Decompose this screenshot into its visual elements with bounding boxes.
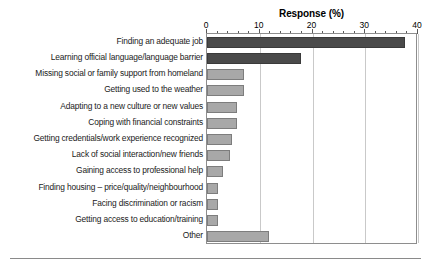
category-label: Lack of social interaction/new friends xyxy=(0,150,203,158)
bar xyxy=(207,166,223,177)
bar xyxy=(207,215,218,226)
bar xyxy=(207,199,218,210)
chart-title: Response (%) xyxy=(206,8,417,19)
bar xyxy=(207,150,230,161)
category-label: Coping with financial constraints xyxy=(0,118,203,126)
gridline xyxy=(418,34,419,243)
y-axis-category-labels: Finding an adequate jobLearning official… xyxy=(0,33,203,244)
bar xyxy=(207,37,405,48)
category-label: Learning official language/language barr… xyxy=(0,53,203,61)
category-label: Getting credentials/work experience reco… xyxy=(0,134,203,142)
category-label: Finding an adequate job xyxy=(0,37,203,45)
category-label: Other xyxy=(0,231,203,239)
category-label: Missing social or family support from ho… xyxy=(0,69,203,77)
category-label: Getting access to education/training xyxy=(0,215,203,223)
bar xyxy=(207,183,218,194)
bar xyxy=(207,102,237,113)
bar xyxy=(207,53,301,64)
gridline xyxy=(260,34,261,243)
bar-chart-figure: Response (%) 010203040 Finding an adequa… xyxy=(0,0,431,271)
bar xyxy=(207,134,232,145)
category-label: Getting used to the weather xyxy=(0,85,203,93)
gridline xyxy=(313,34,314,243)
category-label: Finding housing – price/quality/neighbou… xyxy=(0,183,203,191)
category-label: Adapting to a new culture or new values xyxy=(0,102,203,110)
plot-area xyxy=(206,33,417,244)
gridline xyxy=(365,34,366,243)
bar xyxy=(207,69,244,80)
bar xyxy=(207,118,237,129)
bar xyxy=(207,85,244,96)
bar xyxy=(207,231,269,242)
category-label: Facing discrimination or racism xyxy=(0,199,203,207)
category-label: Gaining access to professional help xyxy=(0,166,203,174)
footer-divider xyxy=(10,258,421,259)
